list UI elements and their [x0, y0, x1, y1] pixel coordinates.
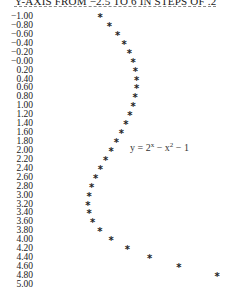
data-row: −0.00* — [0, 57, 231, 66]
data-row: 1.80* — [0, 137, 231, 146]
data-row: 4.40* — [0, 253, 231, 262]
row-label: 5.00 — [0, 280, 33, 289]
data-row: −1.00* — [0, 12, 231, 21]
data-row: 1.00* — [0, 101, 231, 110]
data-row: −0.60* — [0, 30, 231, 39]
data-row: 0.80* — [0, 92, 231, 101]
data-row: 4.60* — [0, 262, 231, 271]
data-row: 1.20* — [0, 110, 231, 119]
equation-label: y = 2x − x2 − 1 — [130, 141, 189, 153]
data-row: 3.00* — [0, 191, 231, 200]
data-row: 3.80* — [0, 226, 231, 235]
data-row: −0.20* — [0, 48, 231, 57]
data-row: 3.60* — [0, 217, 231, 226]
data-row: 2.40* — [0, 164, 231, 173]
data-row: 1.40* — [0, 119, 231, 128]
chart-title: Y-AXIS FROM −2.5 TO 6 IN STEPS OF .2 — [0, 0, 231, 7]
data-row: 1.60* — [0, 128, 231, 137]
data-row: 3.20* — [0, 200, 231, 209]
data-row: −0.40* — [0, 39, 231, 48]
data-row: 2.00* — [0, 146, 231, 155]
data-row: 5.00 — [0, 280, 231, 289]
data-row: 2.20* — [0, 155, 231, 164]
data-row: 4.00* — [0, 235, 231, 244]
data-row: −0.80* — [0, 21, 231, 30]
data-row: 4.20* — [0, 244, 231, 253]
data-row: 2.60* — [0, 173, 231, 182]
data-row: 0.40* — [0, 75, 231, 84]
data-row: 0.20* — [0, 66, 231, 75]
data-row: 3.40* — [0, 208, 231, 217]
data-row: 2.80* — [0, 182, 231, 191]
data-row: 0.60* — [0, 83, 231, 92]
data-row: 4.80* — [0, 271, 231, 280]
